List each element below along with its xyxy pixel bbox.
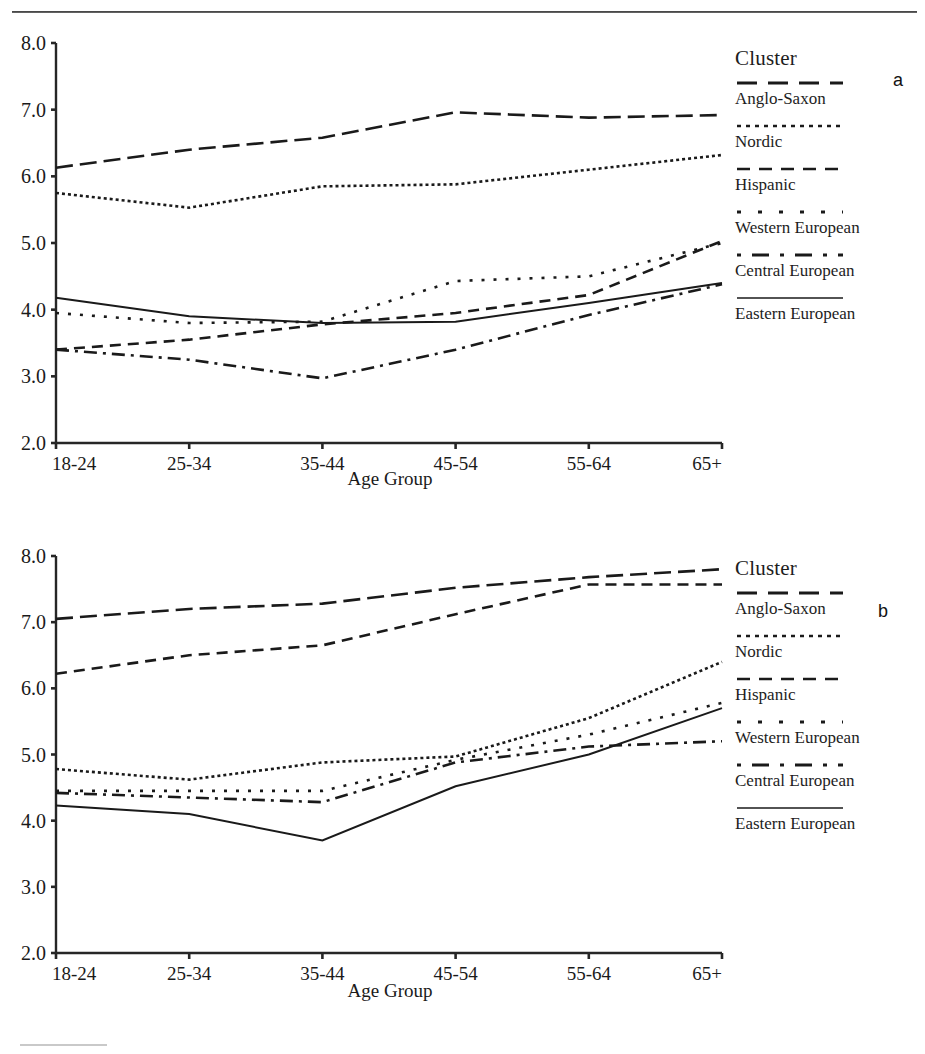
legend-entries: Anglo-SaxonNordicHispanicWestern Europea… [735,585,860,834]
legend-swatch-fine-dotted-icon [735,118,850,132]
legend-entry-western-european[interactable]: Western European [735,204,860,238]
legend-entries: Anglo-SaxonNordicHispanicWestern Europea… [735,75,860,324]
legend-label: Hispanic [735,175,860,195]
legend-entry-hispanic[interactable]: Hispanic [735,671,860,705]
legend-swatch-long-dash-icon [735,585,850,599]
series-line-western-european [56,703,722,791]
legend-entry-eastern-european[interactable]: Eastern European [735,800,860,834]
series-line-nordic [56,662,722,780]
series-line-anglo-saxon [56,569,722,619]
y-tick-label: 3.0 [21,876,46,898]
chart-panel-b: 2.03.04.05.06.07.08.018-2425-3435-4445-5… [0,540,925,1040]
series-line-eastern-european [56,283,722,323]
legend-swatch-dashed-icon [735,671,850,685]
y-tick-label: 5.0 [21,744,46,766]
y-tick-label: 3.0 [21,365,46,387]
legend-title: Cluster [735,556,860,581]
series-line-nordic [56,155,722,208]
x-axis-title-a: Age Group [55,468,725,490]
panel-letter-a: a [893,70,903,91]
legend-swatch-solid-icon [735,800,850,814]
legend-b: Cluster Anglo-SaxonNordicHispanicWestern… [735,556,860,843]
y-tick-label: 6.0 [21,165,46,187]
y-tick-label: 8.0 [21,32,46,54]
y-tick-label: 4.0 [21,810,46,832]
page-bottom-rule [20,1044,107,1046]
legend-entry-central-european[interactable]: Central European [735,757,860,791]
line-chart-a: 2.03.04.05.06.07.08.018-2425-3435-4445-5… [0,28,760,508]
legend-label: Hispanic [735,685,860,705]
panel-letter-b: b [878,601,888,622]
x-axis-title-b: Age Group [55,980,725,1002]
y-tick-label: 2.0 [21,942,46,964]
legend-label: Anglo-Saxon [735,89,860,109]
legend-label: Nordic [735,132,860,152]
series-line-anglo-saxon [56,112,722,167]
legend-entry-anglo-saxon[interactable]: Anglo-Saxon [735,75,860,109]
legend-swatch-long-dash-icon [735,75,850,89]
y-tick-label: 6.0 [21,677,46,699]
line-chart-b: 2.03.04.05.06.07.08.018-2425-3435-4445-5… [0,540,760,1010]
legend-entry-hispanic[interactable]: Hispanic [735,161,860,195]
legend-label: Western European [735,728,860,748]
legend-swatch-dash-dot-icon [735,247,850,261]
y-tick-label: 4.0 [21,299,46,321]
y-tick-label: 5.0 [21,232,46,254]
series-line-hispanic [56,584,722,673]
legend-label: Anglo-Saxon [735,599,860,619]
legend-label: Central European [735,771,860,791]
legend-swatch-solid-icon [735,290,850,304]
legend-swatch-dashed-icon [735,161,850,175]
page-top-rule [12,11,917,13]
y-tick-label: 8.0 [21,545,46,567]
legend-entry-western-european[interactable]: Western European [735,714,860,748]
chart-panel-a: 2.03.04.05.06.07.08.018-2425-3435-4445-5… [0,28,925,508]
series-line-eastern-european [56,708,722,840]
legend-swatch-dash-dot-icon [735,757,850,771]
legend-label: Eastern European [735,814,860,834]
legend-swatch-sparse-dotted-icon [735,714,850,728]
y-tick-label: 7.0 [21,99,46,121]
series-line-central-european [56,741,722,802]
legend-a: Cluster Anglo-SaxonNordicHispanicWestern… [735,46,860,333]
legend-entry-nordic[interactable]: Nordic [735,118,860,152]
legend-label: Eastern European [735,304,860,324]
y-tick-label: 2.0 [21,432,46,454]
series-line-hispanic [56,241,722,350]
figure-page: 2.03.04.05.06.07.08.018-2425-3435-4445-5… [0,0,925,1054]
legend-label: Central European [735,261,860,281]
legend-entry-nordic[interactable]: Nordic [735,628,860,662]
legend-entry-anglo-saxon[interactable]: Anglo-Saxon [735,585,860,619]
legend-swatch-fine-dotted-icon [735,628,850,642]
legend-label: Western European [735,218,860,238]
legend-label: Nordic [735,642,860,662]
legend-entry-eastern-european[interactable]: Eastern European [735,290,860,324]
legend-entry-central-european[interactable]: Central European [735,247,860,281]
y-tick-label: 7.0 [21,611,46,633]
legend-title: Cluster [735,46,860,71]
legend-swatch-sparse-dotted-icon [735,204,850,218]
